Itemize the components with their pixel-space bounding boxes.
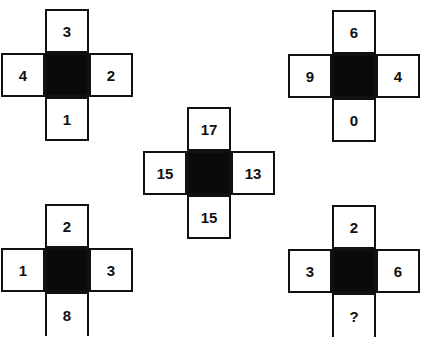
cell-center-shaded [187, 151, 231, 195]
cell-bottom: 8 [45, 292, 89, 336]
cell-top: 2 [332, 205, 376, 249]
cell-bottom: 1 [45, 97, 89, 141]
cell-left: 15 [143, 151, 187, 195]
cell-center-shaded [332, 54, 376, 98]
cell-bottom-unknown: ? [332, 293, 376, 337]
cell-top: 3 [45, 9, 89, 53]
cell-center-shaded [45, 248, 89, 292]
cell-top: 6 [332, 10, 376, 54]
cell-left: 9 [288, 54, 332, 98]
cell-bottom: 15 [187, 195, 231, 239]
cell-right: 13 [231, 151, 275, 195]
cell-bottom: 0 [332, 98, 376, 142]
cell-top: 2 [45, 204, 89, 248]
cell-center-shaded [332, 249, 376, 293]
cell-right: 6 [376, 249, 420, 293]
cell-top: 17 [187, 107, 231, 151]
cell-right: 2 [89, 53, 133, 97]
cell-left: 4 [1, 53, 45, 97]
cell-right: 4 [376, 54, 420, 98]
cell-center-shaded [45, 53, 89, 97]
cell-left: 1 [1, 248, 45, 292]
cell-right: 3 [89, 248, 133, 292]
cell-left: 3 [288, 249, 332, 293]
